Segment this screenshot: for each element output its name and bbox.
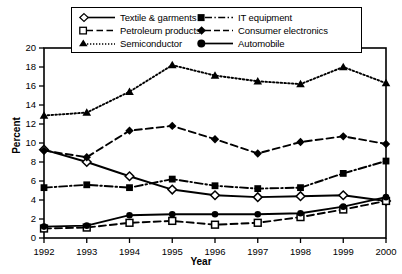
data-point-filled-circle bbox=[254, 211, 261, 218]
data-point-filled-square bbox=[297, 184, 304, 191]
legend-item-textile-garments: Textile & garments bbox=[78, 12, 196, 23]
data-point-open-diamond bbox=[339, 191, 348, 200]
legend-label-it-equipment: IT equipment bbox=[238, 12, 292, 23]
legend-label-semiconductor: Semiconductor bbox=[120, 38, 182, 49]
y-axis-title: Percent bbox=[11, 106, 22, 166]
legend-item-it-equipment: IT equipment bbox=[196, 12, 357, 23]
data-point-filled-square bbox=[340, 170, 347, 177]
data-point-filled-square bbox=[169, 176, 176, 183]
data-point-filled-circle bbox=[383, 194, 390, 201]
data-point-filled-diamond bbox=[211, 135, 219, 143]
data-point-filled-triangle bbox=[125, 87, 134, 95]
data-point-filled-circle bbox=[126, 212, 133, 219]
data-point-open-diamond bbox=[253, 193, 262, 202]
y-tick-label: 16 bbox=[25, 80, 36, 91]
data-point-filled-circle bbox=[169, 211, 176, 218]
y-tick-label: 2 bbox=[31, 213, 36, 224]
data-point-filled-square bbox=[83, 181, 90, 188]
data-point-open-square bbox=[254, 219, 261, 226]
data-point-open-diamond bbox=[168, 185, 177, 194]
legend-symbol-filled-triangle-dotted bbox=[78, 38, 116, 49]
data-point-filled-circle bbox=[212, 211, 219, 218]
y-tick-label: 6 bbox=[31, 175, 36, 186]
chart-legend: Textile & garments IT equipment Petroleu… bbox=[71, 7, 362, 53]
chart-root: Textile & garments IT equipment Petroleu… bbox=[0, 0, 402, 274]
data-point-filled-triangle bbox=[339, 63, 348, 70]
data-point-open-square bbox=[126, 219, 133, 226]
series-semiconductor bbox=[40, 61, 391, 119]
y-tick-label: 20 bbox=[25, 42, 36, 53]
data-point-filled-square bbox=[383, 158, 390, 165]
data-point-open-diamond bbox=[125, 172, 134, 181]
legend-item-semiconductor: Semiconductor bbox=[78, 38, 196, 49]
y-tick-label: 10 bbox=[25, 137, 36, 148]
data-point-filled-diamond bbox=[382, 140, 390, 148]
legend-symbol-open-square-dashed bbox=[78, 25, 116, 36]
legend-label-consumer-electronics: Consumer electronics bbox=[238, 25, 328, 36]
data-point-filled-square bbox=[126, 184, 133, 191]
legend-label-automobile: Automobile bbox=[238, 38, 285, 49]
legend-label-textile-garments: Textile & garments bbox=[120, 12, 196, 23]
data-point-filled-circle bbox=[340, 203, 347, 210]
data-point-open-diamond bbox=[296, 192, 305, 201]
data-point-filled-circle bbox=[83, 222, 90, 229]
legend-item-automobile: Automobile bbox=[196, 38, 357, 49]
legend-item-petroleum-products: Petroleum products bbox=[78, 25, 196, 36]
legend-symbol-filled-circle-solid bbox=[196, 38, 234, 49]
data-point-open-square bbox=[212, 221, 219, 228]
data-point-filled-diamond bbox=[339, 132, 347, 140]
legend-label-petroleum-products: Petroleum products bbox=[120, 25, 201, 36]
y-tick-label: 4 bbox=[31, 194, 36, 205]
data-point-open-square bbox=[169, 218, 176, 225]
data-point-filled-square bbox=[41, 184, 48, 191]
x-axis-title: Year bbox=[0, 256, 402, 267]
y-tick-label: 8 bbox=[31, 156, 36, 167]
data-point-open-diamond bbox=[211, 191, 220, 200]
data-point-filled-square bbox=[212, 182, 219, 189]
legend-symbol-open-diamond-solid bbox=[78, 12, 116, 23]
legend-symbol-filled-diamond-dashed bbox=[196, 25, 234, 36]
y-tick-label: 12 bbox=[25, 118, 36, 129]
data-point-filled-square bbox=[254, 185, 261, 192]
data-point-filled-circle bbox=[297, 210, 304, 217]
data-point-filled-diamond bbox=[254, 149, 262, 157]
data-point-filled-triangle bbox=[168, 61, 177, 69]
data-point-filled-diamond bbox=[296, 138, 304, 146]
y-tick-label: 14 bbox=[25, 99, 36, 110]
series-layer bbox=[40, 61, 391, 232]
series-consumer-electronics bbox=[40, 122, 390, 162]
data-point-filled-diamond bbox=[168, 122, 176, 130]
y-tick-label: 0 bbox=[31, 232, 36, 243]
y-tick-label: 18 bbox=[25, 61, 36, 72]
legend-item-consumer-electronics: Consumer electronics bbox=[196, 25, 357, 36]
data-point-filled-circle bbox=[41, 223, 48, 230]
legend-symbol-filled-square-dashdot bbox=[196, 12, 234, 23]
series-it-equipment bbox=[41, 158, 390, 192]
